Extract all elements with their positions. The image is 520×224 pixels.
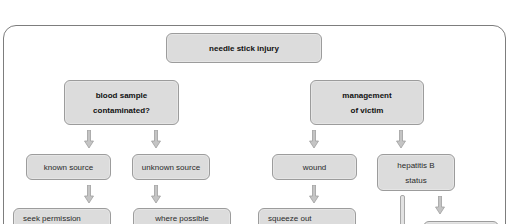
node-label: known source: [44, 160, 93, 175]
node-label: needle stick injury: [209, 41, 279, 56]
node-label: unknown source: [142, 160, 200, 175]
node-label: squeeze out: [268, 211, 312, 224]
down-arrow-icon: [396, 130, 406, 148]
node-needle-stick-injury: needle stick injury: [166, 33, 322, 63]
node-label: seek permission: [23, 211, 81, 224]
node-label: wound: [303, 160, 327, 175]
node-management-of-victim: management of victim: [310, 80, 424, 125]
node-hepatitis-b-status: hepatitis B status: [377, 154, 455, 191]
down-arrow-icon: [151, 185, 161, 203]
down-arrow-icon: [84, 185, 94, 203]
node-wound: wound: [272, 154, 357, 180]
node-known-source: known source: [26, 154, 111, 180]
node-hepatitis-b-next: [423, 221, 499, 224]
node-label-line-1: hepatitis B: [397, 158, 434, 173]
down-arrow-icon: [309, 185, 319, 203]
node-where-possible: where possible: [133, 208, 231, 224]
node-seek-permission: seek permission: [13, 208, 111, 224]
node-label-line-1: management: [342, 88, 391, 103]
node-label-line-2: contaminated?: [93, 103, 150, 118]
down-arrow-icon: [309, 130, 319, 148]
down-arrow-icon: [151, 130, 161, 148]
node-label: where possible: [155, 211, 208, 224]
vertical-connector-bar: [400, 195, 405, 224]
node-label-line-2: status: [405, 173, 426, 188]
node-label-line-2: of victim: [351, 103, 384, 118]
node-unknown-source: unknown source: [132, 154, 210, 180]
node-label-line-1: blood sample: [96, 88, 148, 103]
node-squeeze-out: squeeze out: [258, 208, 356, 224]
node-blood-sample-contaminated: blood sample contaminated?: [64, 80, 179, 125]
down-arrow-icon: [435, 196, 445, 214]
down-arrow-icon: [84, 130, 94, 148]
